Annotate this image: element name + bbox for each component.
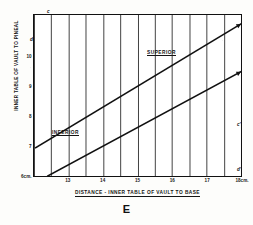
y-tick-7: 7 [10,144,32,149]
figure-panel: 6cm.78910 131415161718cm. INNER TABLE OF… [0,0,253,225]
endpoint-label-c-prime: c' [237,122,241,127]
data-line-c-c- [48,72,241,176]
x-tick-18cm: 18cm. [227,178,253,183]
x-tick-13: 13 [53,178,83,183]
x-tick-17: 17 [192,178,222,183]
y-axis-title: INNER TABLE OF VAULT TO PINEAL [14,6,19,126]
figure-caption: E [0,203,253,215]
gridline-path [34,15,241,176]
region-inferior-text: INFERIOR [52,130,79,136]
region-superior-text: SUPERIOR [147,50,176,56]
arrowheads [236,24,241,76]
x-axis-title: DISTANCE - INNER TABLE OF VAULT TO BASE [33,190,242,195]
endpoint-label-c: c [47,9,50,14]
x-tick-14: 14 [88,178,118,183]
x-axis-title-text: DISTANCE - INNER TABLE OF VAULT TO BASE [75,190,200,197]
gridlines [34,15,241,176]
endpoint-label-d: d [30,37,33,42]
grid-layer [34,15,241,176]
y-axis-title-text: INNER TABLE OF VAULT TO PINEAL [14,20,19,110]
chart-svg [34,15,241,176]
y-tick-6cm: 6cm. [10,174,32,179]
endpoint-label-d-prime: d' [237,167,241,172]
x-tick-16: 16 [157,178,187,183]
region-label-inferior: INFERIOR [52,130,79,135]
x-tick-15: 15 [123,178,153,183]
plot-area [33,14,242,177]
region-label-superior: SUPERIOR [147,50,176,55]
